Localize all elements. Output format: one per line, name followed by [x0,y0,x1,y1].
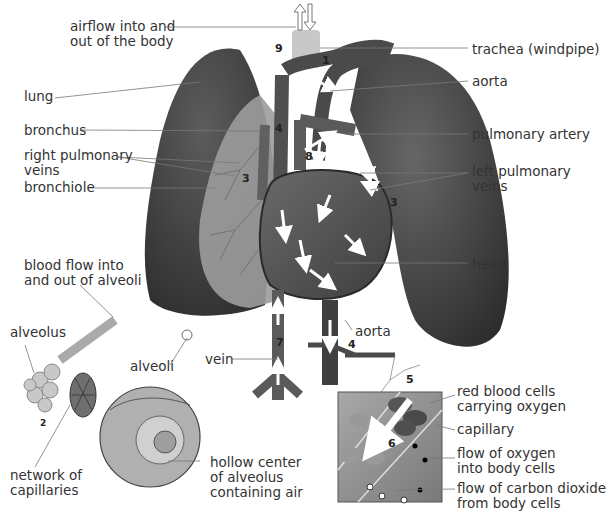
label-line: flow of carbon dioxide [457,480,606,496]
label-line: capillaries [10,482,78,498]
step-number-9: 9 [275,42,283,55]
label-lung: lung [24,89,53,104]
pulmonary-trunk [300,120,355,130]
label-aorta-bottom: aorta [355,324,391,339]
label-line: out of the body [70,33,174,49]
step-number-8: 8 [305,150,313,163]
label-left-pulmonary-veins: left pulmonaryveins [472,164,571,194]
label-flow-co2: flow of carbon dioxidefrom body cells [457,481,606,511]
magnified-alveolus [100,387,200,487]
label-vein: vein [205,352,234,367]
label-heart: heart [472,257,508,272]
label-line: carrying oxygen [457,398,566,414]
label-line: hollow center [210,454,301,470]
airflow-down-arrow [304,4,316,30]
step-number-3-right: 3 [390,196,398,209]
step-number-3-left: 3 [242,172,250,185]
label-right-pulmonary-veins: right pulmonaryveins [24,148,133,178]
label-alveolus: alveolus [10,325,66,340]
step-number-2: 2 [40,418,46,428]
step-number-7: 7 [276,336,284,349]
label-flow-oxygen: flow of oxygeninto body cells [457,446,556,476]
label-line: from body cells [457,495,561,511]
label-line: red blood cells [457,383,555,399]
label-alveoli: alveoli [130,359,174,374]
label-line: veins [472,178,508,194]
label-line: into body cells [457,460,555,476]
label-line: left pulmonary [472,163,571,179]
label-red-blood-cells: red blood cellscarrying oxygen [457,384,566,414]
label-line: of alveolus [210,469,283,485]
label-line: network of [10,467,82,483]
label-bronchiole: bronchiole [24,180,95,195]
label-capillary: capillary [457,422,514,437]
label-line: containing air [210,484,303,500]
label-airflow: airflow into andout of the body [70,19,175,49]
label-line: and out of alveoli [24,272,141,288]
label-line: blood flow into [24,257,124,273]
label-network-capillaries: network ofcapillaries [10,468,82,498]
step-number-4-top: 4 [275,122,283,135]
label-line: right pulmonary [24,147,133,163]
label-aorta-top: aorta [472,74,508,89]
label-line: flow of oxygen [457,445,556,461]
label-hollow-center: hollow centerof alveoluscontaining air [210,455,303,500]
label-pulmonary-artery: pulmonary artery [472,127,590,142]
label-line: veins [24,162,60,178]
label-line: airflow into and [70,18,175,34]
label-bronchus: bronchus [24,123,86,138]
step-number-5: 5 [406,373,414,386]
airflow-up-arrow [294,4,306,30]
step-number-4-bottom: 4 [348,338,356,351]
label-trachea: trachea (windpipe) [472,42,600,57]
step-number-6: 6 [388,437,396,450]
label-blood-flow-alveoli: blood flow intoand out of alveoli [24,258,141,288]
bronchus-vessel [262,125,265,200]
step-number-1: 1 [322,54,330,67]
